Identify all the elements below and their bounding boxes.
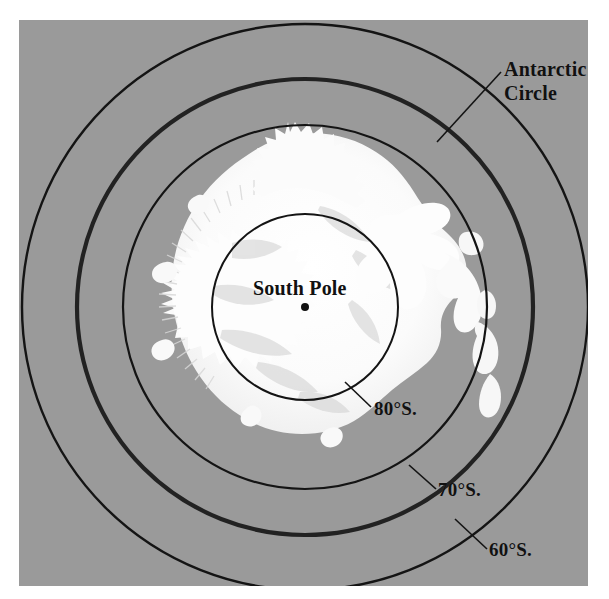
label-south-pole: South Pole	[253, 277, 347, 301]
leader-antarctic-circle	[437, 72, 501, 142]
label-latitude-80s: 80°S.	[374, 398, 417, 420]
label-antarctic-circle-line1: Antarctic	[504, 58, 587, 82]
label-antarctic-circle-line2: Circle	[504, 82, 587, 106]
leader-70s	[409, 465, 436, 489]
label-latitude-70s: 70°S.	[438, 479, 481, 501]
antarctica-map-figure: Antarctic Circle South Pole 80°S. 70°S. …	[0, 0, 609, 599]
label-antarctic-circle: Antarctic Circle	[504, 58, 587, 105]
south-pole-marker	[301, 303, 309, 311]
label-latitude-60s: 60°S.	[489, 539, 532, 561]
